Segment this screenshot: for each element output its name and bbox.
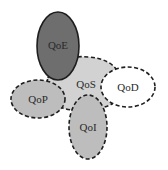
qop-label: QoP [28,93,48,105]
qoi-label: QoI [79,121,96,133]
qoe-label: QoE [48,39,68,51]
node-qoi: QoI [69,95,107,159]
node-qod: QoD [101,67,155,107]
qos-label: QoS [76,78,96,90]
qos-diagram: QoS QoE QoD QoP QoI [0,0,168,170]
qod-label: QoD [117,81,138,93]
node-qoe: QoE [37,12,79,80]
node-qop: QoP [11,80,65,118]
